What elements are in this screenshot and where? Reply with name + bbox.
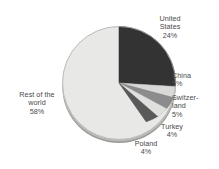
- pie-label-rest-of-the-world-value: 58%: [6, 108, 68, 117]
- pie-label-united-states: United States 24%: [144, 6, 196, 49]
- pie-label-poland-value: 4%: [124, 148, 168, 157]
- pie-label-united-states-name: United States: [159, 14, 180, 32]
- pie-label-poland: Poland 4%: [124, 131, 168, 165]
- pie-label-rest-of-the-world-name: Rest of the world: [19, 90, 54, 108]
- pie-label-rest-of-the-world: Rest of the world 58%: [6, 82, 68, 125]
- pie-label-switzerland-name: Switzer- land: [172, 93, 198, 111]
- pie-label-united-states-value: 24%: [144, 32, 196, 41]
- pie-chart: United States 24% China 5% Switzer- land…: [0, 0, 219, 169]
